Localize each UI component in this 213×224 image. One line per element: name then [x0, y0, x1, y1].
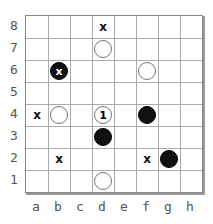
rank-label: 2 — [8, 150, 20, 165]
white-stone-d1[interactable] — [94, 172, 112, 190]
file-label: e — [113, 199, 135, 214]
white-stone-f6[interactable] — [138, 62, 156, 80]
file-label: d — [91, 199, 113, 214]
grid-line-horizontal — [26, 126, 202, 127]
file-label: a — [25, 199, 47, 214]
white-stone-d7[interactable] — [94, 40, 112, 58]
white-stone-b4[interactable] — [50, 106, 68, 124]
rank-label: 3 — [8, 128, 20, 143]
file-label: g — [157, 199, 179, 214]
file-label: c — [69, 199, 91, 214]
rank-label: 7 — [8, 40, 20, 55]
grid-line-horizontal — [26, 170, 202, 171]
game-board[interactable]: x1xxxx — [25, 15, 203, 193]
file-label: h — [179, 199, 201, 214]
file-label: b — [47, 199, 69, 214]
x-mark-a4[interactable]: x — [26, 104, 48, 126]
rank-label: 1 — [8, 172, 20, 187]
x-mark-d8[interactable]: x — [92, 16, 114, 38]
white-stone-d4[interactable]: 1 — [94, 106, 112, 124]
grid-line-vertical — [180, 16, 181, 192]
rank-label: 6 — [8, 62, 20, 77]
rank-label: 4 — [8, 106, 20, 121]
rank-label: 5 — [8, 84, 20, 99]
x-mark-f2[interactable]: x — [136, 148, 158, 170]
black-stone-g2[interactable] — [160, 150, 178, 168]
black-stone-b6[interactable]: x — [50, 62, 68, 80]
x-mark-b2[interactable]: x — [48, 148, 70, 170]
black-stone-d3[interactable] — [94, 128, 112, 146]
grid-line-vertical — [158, 16, 159, 192]
file-label: f — [135, 199, 157, 214]
rank-label: 8 — [8, 18, 20, 33]
black-stone-f4[interactable] — [138, 106, 156, 124]
grid-line-horizontal — [26, 104, 202, 105]
